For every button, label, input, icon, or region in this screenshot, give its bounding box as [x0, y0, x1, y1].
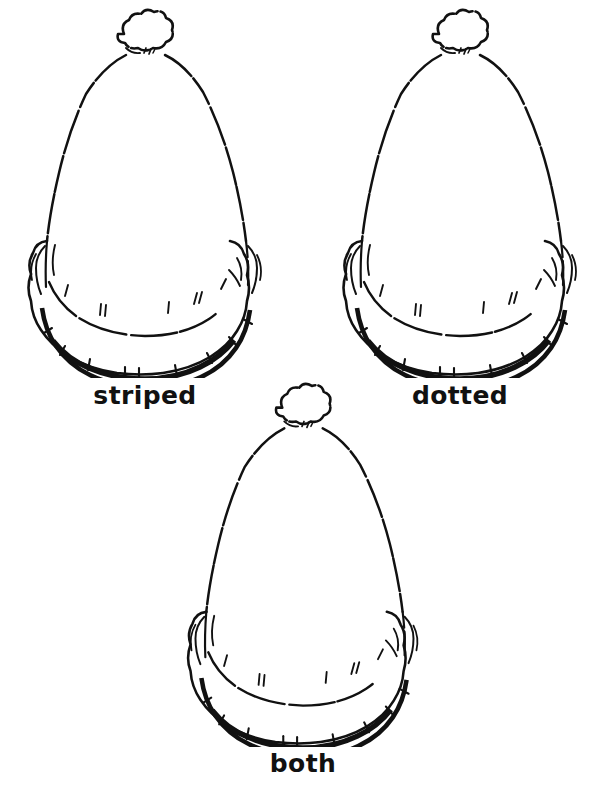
winter-hat-with-pompom-icon — [163, 382, 443, 747]
winter-hat-with-pompom-icon — [320, 8, 600, 378]
hat-figure-dotted: dotted — [320, 8, 600, 378]
worksheet-page: striped — [0, 0, 605, 792]
hat-figure-striped: striped — [5, 8, 285, 378]
hat-label-both: both — [163, 751, 443, 776]
winter-hat-with-pompom-icon — [5, 8, 285, 378]
hat-figure-both: both — [163, 382, 443, 747]
